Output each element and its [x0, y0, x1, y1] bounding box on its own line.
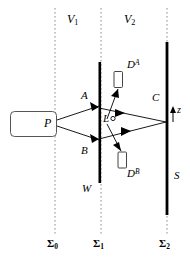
arrowhead-at-A: [90, 102, 99, 111]
label-region-V1: V1: [67, 13, 78, 27]
label-slit-B: B: [81, 145, 88, 156]
label-detector-B: DB: [127, 168, 140, 179]
label-slit-A: A: [81, 90, 88, 101]
arrowhead-to-DB: [113, 142, 121, 151]
ray-arrowheads: [90, 89, 131, 151]
arrowhead-to-DA: [111, 89, 119, 98]
label-light-source-L: L: [103, 113, 109, 124]
wall-middle-segment: [99, 108, 102, 138]
barrier-wall: [99, 62, 102, 183]
label-wall-W: W: [82, 183, 91, 194]
detector-B-box: [118, 152, 127, 168]
label-sigma-1: Σ1: [93, 238, 104, 250]
detector-A-box: [114, 72, 123, 88]
arrowhead-A-to-C: [115, 109, 125, 117]
label-detector-A: DA: [127, 59, 140, 70]
label-point-C: C: [152, 92, 159, 103]
reference-planes: [55, 8, 167, 236]
arrowhead-B-to-C: [121, 127, 131, 136]
ray-B-to-C: [99, 122, 166, 139]
label-sigma-0: Σ0: [47, 238, 58, 250]
arrowhead-at-B: [90, 134, 99, 143]
label-axis-z: z: [177, 105, 181, 115]
diagram-canvas: [0, 0, 190, 267]
light-source-marker: [111, 116, 115, 120]
wall-upper-segment: [99, 62, 102, 108]
detection-screen-bar: [166, 42, 169, 215]
label-source-P: P: [44, 117, 51, 129]
label-region-V2: V2: [124, 13, 135, 27]
z-axis-arrow: [170, 106, 176, 122]
physics-diagram: V1 V2 DA DB A B L P W S C z Σ0 Σ1 Σ2: [0, 0, 190, 267]
label-sigma-2: Σ2: [159, 238, 170, 250]
wall-lower-segment: [99, 138, 102, 183]
label-screen-S: S: [174, 170, 180, 181]
